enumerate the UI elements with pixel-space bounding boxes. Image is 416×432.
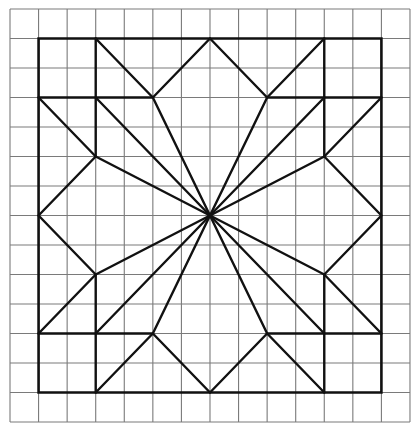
quilt-diagram: [0, 0, 416, 432]
center-point: [207, 213, 212, 218]
